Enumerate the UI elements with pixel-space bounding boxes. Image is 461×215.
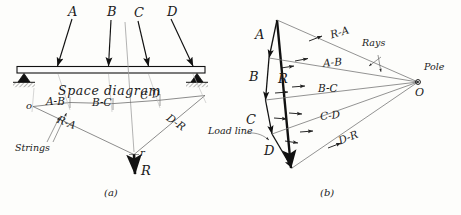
load-label-a: A [68,5,77,18]
load-arrow-d [171,19,193,66]
load-line-label: Load line [208,126,253,136]
pole-label: Pole [424,62,444,72]
string-label-b-c: B-C [92,97,112,108]
string-label-a-b: A-B [46,96,65,107]
force-vector-label-b: B [249,70,259,83]
load-arrow-a [58,19,73,66]
funicular-closing-point-label: r [140,148,145,158]
resultant-label-a: R [141,164,151,177]
caption-b: (b) [320,188,334,198]
strings-label: Strings [15,143,50,153]
load-label-b: B [107,5,117,18]
figure-container: A B C D Space diagram o A-B B-C C-D R-A … [0,0,461,215]
load-label-d: D [167,5,177,18]
force-vector-label-d: D [264,144,274,157]
caption-a: (a) [104,188,118,198]
beam [17,67,205,74]
funicular-start-point-label: o [26,101,32,111]
graphic-statics-figure [0,0,461,215]
right-support [186,74,208,88]
resultant-arrow-a [134,154,135,174]
rays-label: Rays [362,38,385,48]
load-label-c: C [134,6,144,19]
ray-label-c-d: C-D [320,109,341,122]
pole-letter-label: O [415,87,424,98]
load-arrow-b [109,20,112,66]
load-arrow-c [138,21,149,66]
resultant-label-b: R [278,72,288,85]
ray-label-b-c: B-C [318,83,338,94]
force-vector-label-a: A [255,28,264,41]
left-support [13,74,35,88]
ray-label-a-b: A-B [323,56,343,68]
